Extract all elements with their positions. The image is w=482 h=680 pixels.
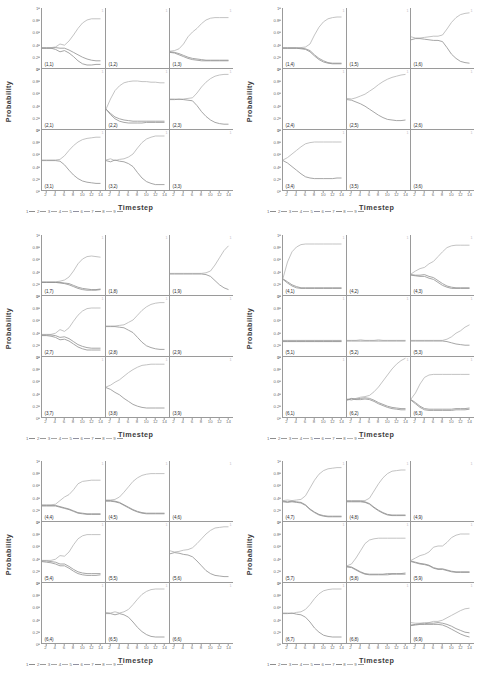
subplot-panel[interactable]: 1(4,7) [282, 461, 346, 522]
legend-item[interactable]: 5 [311, 209, 320, 214]
legend-item[interactable]: 3 [48, 662, 57, 667]
subplot-panel[interactable]: 1(4,6) [169, 461, 233, 522]
legend-item[interactable]: 8 [102, 662, 111, 667]
subplot-panel[interactable]: 1(4,4) [41, 461, 105, 522]
subplot-panel[interactable]: 1(4,9) [410, 461, 474, 522]
legend-item[interactable]: 7 [332, 662, 341, 667]
legend-item[interactable]: 6 [80, 662, 89, 667]
subplot-panel[interactable]: 1(1,7) [41, 235, 105, 296]
subplot-panel[interactable]: 1(6,1) [282, 357, 346, 418]
legend-item[interactable]: 1 [267, 662, 276, 667]
legend-item[interactable]: 8 [102, 209, 111, 214]
legend-item[interactable]: 4 [59, 209, 68, 214]
legend-item[interactable]: 4 [300, 436, 309, 441]
legend-item[interactable]: 2 [278, 209, 287, 214]
subplot-panel[interactable]: 1(1,8) [105, 235, 169, 296]
legend-item[interactable]: 7 [91, 662, 100, 667]
legend-item[interactable]: 7 [91, 436, 100, 441]
legend-item[interactable]: 5 [311, 662, 320, 667]
subplot-panel[interactable]: 1(3,5) [346, 130, 410, 191]
subplot-panel[interactable]: 1(5,7) [282, 522, 346, 583]
subplot-panel[interactable]: 1(4,3) [410, 235, 474, 296]
subplot-panel[interactable]: 1(6,3) [410, 357, 474, 418]
subplot-panel[interactable]: 1(5,4) [41, 522, 105, 583]
subplot-panel[interactable]: 1(1,4) [282, 8, 346, 69]
legend-item[interactable]: 2 [278, 662, 287, 667]
legend-item[interactable]: 5 [311, 436, 320, 441]
legend-item[interactable]: 6 [321, 436, 330, 441]
legend-item[interactable]: 1 [267, 436, 276, 441]
subplot-panel[interactable]: 1(4,2) [346, 235, 410, 296]
subplot-panel[interactable]: 1(2,1) [41, 69, 105, 130]
legend-item[interactable]: 3 [289, 209, 298, 214]
legend-item[interactable]: 1 [267, 209, 276, 214]
subplot-panel[interactable]: 1(5,6) [169, 522, 233, 583]
legend-item[interactable]: 6 [321, 209, 330, 214]
legend-item[interactable]: 2 [278, 436, 287, 441]
subplot-panel[interactable]: 1(1,9) [169, 235, 233, 296]
legend-item[interactable]: 7 [332, 436, 341, 441]
subplot-panel[interactable]: 1(6,9) [410, 583, 474, 644]
legend-item[interactable]: 6 [321, 662, 330, 667]
subplot-panel[interactable]: 1(1,3) [169, 8, 233, 69]
legend-item[interactable]: 4 [59, 436, 68, 441]
subplot-panel[interactable]: 1(1,2) [105, 8, 169, 69]
legend-item[interactable]: 4 [300, 209, 309, 214]
subplot-panel[interactable]: 1(3,6) [410, 130, 474, 191]
subplot-panel[interactable]: 1(6,5) [105, 583, 169, 644]
legend-item[interactable]: 1 [26, 209, 35, 214]
subplot-panel[interactable]: 1(6,6) [169, 583, 233, 644]
subplot-panel[interactable]: 1(5,3) [410, 296, 474, 357]
subplot-panel[interactable]: 1(2,4) [282, 69, 346, 130]
subplot-panel[interactable]: 1(3,4) [282, 130, 346, 191]
subplot-panel[interactable]: 1(3,9) [169, 357, 233, 418]
legend-item[interactable]: 6 [80, 209, 89, 214]
subplot-panel[interactable]: 1(3,2) [105, 130, 169, 191]
subplot-panel[interactable]: 1(4,5) [105, 461, 169, 522]
subplot-panel[interactable]: 1(1,6) [410, 8, 474, 69]
legend-item[interactable]: 7 [91, 209, 100, 214]
legend-item[interactable]: 4 [59, 662, 68, 667]
legend-item[interactable]: 8 [343, 662, 352, 667]
subplot-panel[interactable]: 1(5,5) [105, 522, 169, 583]
subplot-panel[interactable]: 1(5,2) [346, 296, 410, 357]
legend-item[interactable]: 2 [37, 436, 46, 441]
subplot-panel[interactable]: 1(4,1) [282, 235, 346, 296]
subplot-panel[interactable]: 1(3,8) [105, 357, 169, 418]
subplot-panel[interactable]: 1(5,8) [346, 522, 410, 583]
legend-item[interactable]: 5 [70, 662, 79, 667]
subplot-panel[interactable]: 1(6,2) [346, 357, 410, 418]
legend-item[interactable]: 3 [289, 662, 298, 667]
legend-item[interactable]: 8 [343, 209, 352, 214]
subplot-panel[interactable]: 1(2,8) [105, 296, 169, 357]
legend-item[interactable]: 3 [289, 436, 298, 441]
subplot-panel[interactable]: 1(2,5) [346, 69, 410, 130]
legend-item[interactable]: 2 [37, 209, 46, 214]
subplot-panel[interactable]: 1(4,8) [346, 461, 410, 522]
subplot-panel[interactable]: 1(3,7) [41, 357, 105, 418]
subplot-panel[interactable]: 1(1,5) [346, 8, 410, 69]
subplot-panel[interactable]: 1(3,3) [169, 130, 233, 191]
subplot-panel[interactable]: 1(6,7) [282, 583, 346, 644]
legend-item[interactable]: 1 [26, 436, 35, 441]
legend-item[interactable]: 7 [332, 209, 341, 214]
subplot-panel[interactable]: 1(2,3) [169, 69, 233, 130]
legend-item[interactable]: 6 [80, 436, 89, 441]
subplot-panel[interactable]: 1(2,7) [41, 296, 105, 357]
legend-item[interactable]: 8 [102, 436, 111, 441]
subplot-panel[interactable]: 1(5,1) [282, 296, 346, 357]
subplot-panel[interactable]: 1(6,8) [346, 583, 410, 644]
legend-item[interactable]: 4 [300, 662, 309, 667]
legend-item[interactable]: 5 [70, 209, 79, 214]
legend-item[interactable]: 2 [37, 662, 46, 667]
subplot-panel[interactable]: 1(2,9) [169, 296, 233, 357]
legend-item[interactable]: 8 [343, 436, 352, 441]
subplot-panel[interactable]: 1(2,2) [105, 69, 169, 130]
subplot-panel[interactable]: 1(6,4) [41, 583, 105, 644]
subplot-panel[interactable]: 1(1,1) [41, 8, 105, 69]
legend-item[interactable]: 3 [48, 436, 57, 441]
subplot-panel[interactable]: 1(2,6) [410, 69, 474, 130]
legend-item[interactable]: 1 [26, 662, 35, 667]
subplot-panel[interactable]: 1(3,1) [41, 130, 105, 191]
subplot-panel[interactable]: 1(5,9) [410, 522, 474, 583]
